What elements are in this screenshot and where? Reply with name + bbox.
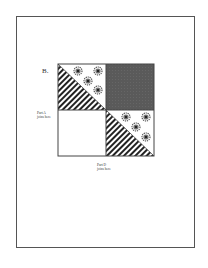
part-d-label: Part D joins here bbox=[97, 163, 111, 171]
quilt-block-diagram bbox=[57, 63, 155, 157]
block-label: B. bbox=[42, 67, 48, 75]
top-left-square bbox=[58, 64, 106, 110]
part-a-label: Part A joins here bbox=[37, 111, 51, 119]
top-right-square bbox=[106, 64, 154, 110]
bottom-right-square bbox=[106, 110, 154, 156]
bottom-left-square bbox=[58, 110, 106, 156]
